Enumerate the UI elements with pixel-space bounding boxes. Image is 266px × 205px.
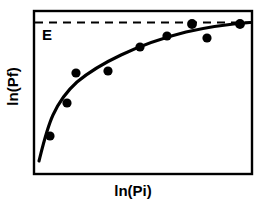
data-point <box>235 19 245 29</box>
plot-area <box>0 0 266 205</box>
data-point <box>162 31 171 40</box>
data-point <box>202 33 211 42</box>
y-axis-label: ln(Pf) <box>4 57 21 117</box>
data-point <box>71 68 80 77</box>
x-axis-label: ln(Pi) <box>0 182 266 199</box>
chart-figure: E ln(Pf) ln(Pi) <box>0 0 266 205</box>
data-point <box>135 42 144 51</box>
asymptote-label: E <box>42 26 52 43</box>
data-point <box>62 98 71 107</box>
data-point <box>103 66 112 75</box>
data-point <box>187 19 197 29</box>
data-point <box>45 131 54 140</box>
